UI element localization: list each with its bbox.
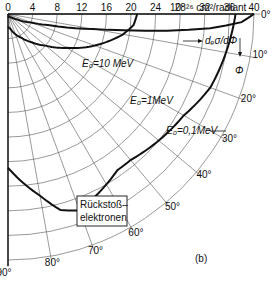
grid-spoke [8,14,52,262]
angle-tick-label: 30° [222,133,237,144]
radial-tick-label: 12 [76,2,88,13]
radial-tick-label: 20 [125,2,137,13]
radial-tick-label: 0 [5,2,11,13]
grid-spoke [8,14,226,140]
radial-tick-label: 24 [150,2,162,13]
angle-tick-label: 50° [165,201,180,212]
radial-tick-label: 8 [54,2,60,13]
angle-tick-label: 90° [0,267,12,278]
label-e10: E₀=10 MeV [82,58,135,69]
sigma-arrowhead [198,39,203,43]
label-e01: E₀=0,1MeV [166,125,219,136]
radial-tick-label: 40 [248,2,260,13]
unit-label: 10⁻²⁶ cm²/radiant [170,2,247,13]
angle-tick-label: 60° [128,227,143,238]
angle-tick-label: 80° [45,257,60,268]
sigma-label: dₑσ/dΦ [205,35,237,46]
angle-tick-label: 20° [241,93,256,104]
recoil-electrons-line2: elektronen [80,212,127,223]
label-e1: E₀=1MeV [130,95,174,106]
polar-chart: 04812162024283236400°10°20°30°40°50°60°7… [0,0,273,298]
angle-tick-label: 10° [252,49,267,60]
curve-series [8,14,236,211]
panel-label: (b) [195,253,207,264]
recoil-electrons-line1: Rückstoß– [80,199,128,210]
angle-tick-label: 70° [88,245,103,256]
angle-tick-label: 40° [196,169,211,180]
angle-tick-label: 0° [261,9,271,20]
radial-tick-label: 16 [101,2,113,13]
radial-tick-label: 4 [30,2,36,13]
phi-label: Φ [235,65,243,76]
